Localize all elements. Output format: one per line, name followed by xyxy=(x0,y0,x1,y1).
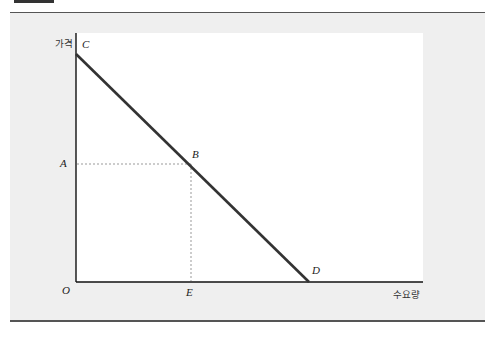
point-label-e: E xyxy=(186,286,193,298)
point-label-a: A xyxy=(60,157,67,169)
y-axis-label: 가격 xyxy=(55,36,73,50)
point-label-d: D xyxy=(312,264,320,276)
x-axis-label: 수요량 xyxy=(393,287,420,301)
demand-line xyxy=(76,54,309,282)
point-label-b: B xyxy=(192,148,199,160)
origin-label: O xyxy=(62,284,70,296)
demand-chart xyxy=(0,0,496,337)
point-label-c: C xyxy=(82,38,89,50)
